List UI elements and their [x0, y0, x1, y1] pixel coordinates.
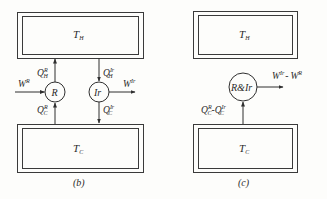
label-WR: WR — [18, 78, 30, 89]
hot-reservoir-label: TH — [239, 28, 250, 41]
diagram-canvas: TH TC R WR QRH QRC Ir WIr QIrH QIrC ( — [0, 0, 327, 199]
label-Wdiff: WIr-WR — [272, 70, 302, 81]
label-QHIr: QIrH — [103, 67, 115, 79]
cold-reservoir-c: TC — [194, 125, 298, 173]
hot-reservoir-c: TH — [194, 12, 298, 59]
hot-reservoir-b: TH — [18, 13, 144, 59]
caption-c: (c) — [238, 177, 250, 189]
engine-R-label: R — [51, 87, 58, 98]
label-QHR: QRH — [37, 67, 49, 79]
panel-c: TH TC R&Ir WIr-WR QRC-QIrC (c) — [194, 12, 303, 190]
label-Qdiff: QRC-QIrC — [201, 104, 227, 116]
engine-RIr-label: R&Ir — [230, 82, 252, 93]
engine-Ir-label: Ir — [93, 87, 101, 98]
label-WIr: WIr — [123, 78, 136, 89]
cold-reservoir-label: TC — [73, 142, 84, 155]
panel-b: TH TC R WR QRH QRC Ir WIr QIrH QIrC ( — [15, 13, 144, 190]
cold-reservoir-b: TC — [18, 125, 144, 173]
hot-reservoir-label: TH — [73, 28, 84, 41]
cold-reservoir-label: TC — [239, 142, 250, 155]
label-QCR: QRC — [37, 104, 49, 116]
label-QCIr: QIrC — [103, 104, 115, 116]
caption-b: (b) — [73, 177, 85, 189]
